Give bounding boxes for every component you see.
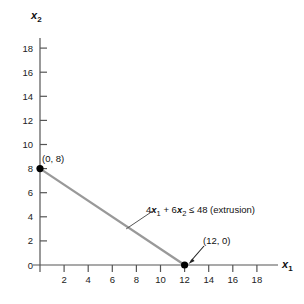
constraint-equation-label: 4x1 + 6x2 ≤ 48 (extrusion)	[146, 204, 255, 218]
vertex-label-12-0: (12, 0)	[203, 235, 230, 246]
x-tick-label-14: 14	[203, 274, 214, 285]
y-tick-label-8: 8	[28, 163, 33, 174]
y-tick-label-10: 10	[22, 139, 33, 150]
chart-canvas: 2 4 6 8 10 12 14 16 18 0 2 4 6	[0, 0, 304, 304]
x-axis-title-sub: 1	[288, 264, 293, 273]
rhs-value: 48	[197, 204, 208, 215]
vertex-label-0-8: (0, 8)	[42, 153, 64, 164]
x-tick-label-4: 4	[86, 274, 91, 285]
y-tick-label-12: 12	[22, 115, 33, 126]
x-tick-label-12: 12	[179, 274, 190, 285]
y-axis-ticks	[40, 48, 47, 241]
x-axis-tick-labels: 2 4 6 8 10 12 14 16 18	[61, 274, 262, 285]
x-tick-label-2: 2	[61, 274, 66, 285]
x-tick-label-10: 10	[155, 274, 166, 285]
vertex-marker-0-8	[36, 165, 43, 172]
y-axis-title-sub: 2	[37, 15, 42, 24]
y-tick-label-18: 18	[22, 43, 33, 54]
y-tick-label-16: 16	[22, 67, 33, 78]
constraint-line-chart: 2 4 6 8 10 12 14 16 18 0 2 4 6	[0, 0, 304, 304]
callout-arrow-head	[188, 259, 194, 265]
x-tick-label-6: 6	[110, 274, 115, 285]
x-axis-ticks	[64, 265, 257, 272]
y-tick-label-14: 14	[22, 91, 33, 102]
x-tick-label-18: 18	[252, 274, 263, 285]
constraint-name: (extrusion)	[210, 204, 255, 215]
vertex-callout-arrow	[188, 246, 204, 264]
x-axis-title: x1	[281, 258, 293, 273]
y-tick-label-6: 6	[28, 187, 33, 198]
x-tick-label-16: 16	[228, 274, 239, 285]
constraint-boundary-line	[40, 169, 185, 265]
vertex-marker-12-0	[181, 261, 188, 268]
axes-group	[33, 38, 278, 272]
y-axis-title: x2	[30, 9, 42, 24]
x-tick-label-8: 8	[134, 274, 139, 285]
y-tick-label-2: 2	[28, 235, 33, 246]
y-tick-label-4: 4	[28, 211, 33, 222]
y-axis-tick-labels: 0 2 4 6 8 10 12 14 16 18	[22, 43, 33, 271]
y-tick-label-0: 0	[28, 260, 33, 271]
